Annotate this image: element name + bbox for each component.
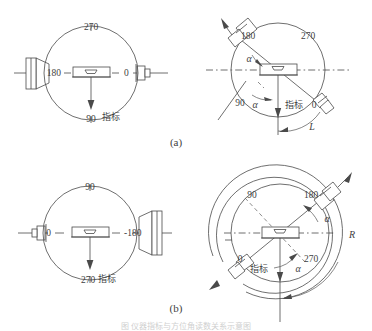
mark-bottom-a-left: 90	[86, 114, 96, 124]
mark-lower-left-b-right: 0	[238, 254, 243, 264]
mark-upper-right-a-right: 270	[301, 31, 316, 41]
top-left-dial: 270 180 0 90 指标	[14, 22, 168, 124]
pointer-label-b-left: 指标	[98, 273, 116, 284]
mark-lower-left-a-right: 90	[235, 98, 245, 108]
arc-label-L: L	[308, 121, 315, 132]
level-instrument	[72, 67, 111, 77]
top-right-dial: 180 270 90 0 α α 指标 L	[206, 18, 352, 135]
angle-label-upper-a-right: α	[246, 53, 252, 64]
arc-label-R: R	[348, 229, 355, 240]
right-horn-attachment	[139, 211, 162, 255]
mark-upper-left-b-right: 90	[247, 190, 257, 200]
pointer-label-a-left: 指标	[102, 111, 120, 122]
technical-figure: 270 180 0 90 指标	[0, 0, 372, 331]
mark-right-b-left: -180	[124, 228, 142, 238]
level-instrument	[259, 64, 298, 75]
bottom-caption: 图 仪器指标与方位角读数关系示意图	[121, 321, 252, 331]
mark-upper-right-b-right: 180	[304, 190, 319, 200]
level-instrument	[261, 227, 300, 238]
pointer-label-b-right: 指标	[250, 263, 268, 274]
left-stub-attachment	[32, 224, 46, 242]
mark-right-a-left: 0	[124, 68, 129, 78]
bottom-left-dial: 90 0 -180 270 指标	[18, 182, 172, 285]
mark-left-b-left: 0	[46, 228, 51, 238]
angle-label-lower-a-right: α	[252, 99, 258, 110]
pointer-label-a-right: 指标	[285, 99, 303, 110]
mark-top-b-left: 90	[85, 182, 95, 192]
caption-b: (b)	[170, 302, 183, 315]
angle-label-lower-b-right: α	[295, 263, 301, 274]
mark-top-a-left: 270	[84, 22, 99, 32]
mark-bottom-b-left: 270	[81, 275, 96, 285]
bottom-right-dial: 90 180 0 270 α α 指标 R	[208, 165, 355, 322]
mark-upper-left-a-right: 180	[241, 31, 256, 41]
upper-right-sight-attachment	[314, 172, 352, 210]
level-instrument	[71, 227, 110, 237]
caption-a: (a)	[170, 136, 183, 149]
mark-lower-right-a-right: 0	[312, 100, 317, 110]
mark-left-a-left: 180	[47, 68, 62, 78]
angle-label-upper-b-right: α	[324, 213, 330, 224]
mark-lower-right-b-right: 270	[304, 254, 319, 264]
